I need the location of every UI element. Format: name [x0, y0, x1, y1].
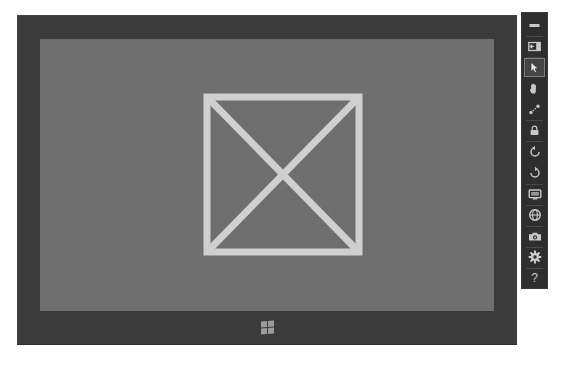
toolbar-item-rotate-right[interactable]: Rotate Right [524, 164, 545, 183]
minimize-icon [528, 19, 541, 32]
toolbar-item-rotate-left[interactable]: Rotate Left [524, 142, 545, 161]
rotate-left-icon [528, 145, 542, 159]
cursor-arrow-icon [528, 61, 541, 74]
toolbar-item-settings[interactable]: Settings [524, 248, 545, 267]
toolbar-item-screenshot[interactable]: Screenshot [524, 227, 545, 246]
hand-icon [528, 82, 541, 95]
network-globe-icon [528, 208, 542, 222]
crossed-box-icon [203, 93, 363, 256]
toolbar-item-network[interactable]: Network [524, 206, 545, 225]
app-root: Windows Minimize Collapse Panel Poin [0, 0, 561, 365]
toolbar-item-collapse-panel[interactable]: Collapse Panel [524, 37, 545, 56]
toolbar-item-minimize[interactable]: Minimize [524, 16, 545, 35]
monitor-icon [528, 188, 542, 201]
gear-icon [528, 250, 542, 264]
image-placeholder [203, 93, 363, 256]
multi-touch-icon [528, 103, 541, 116]
toolbar-item-pan[interactable]: Pan [524, 79, 545, 98]
rotate-right-icon [528, 166, 542, 180]
toolbar-item-pointer[interactable]: Pointer [524, 58, 545, 77]
keyboard-lock-icon [528, 124, 541, 137]
toolbar-item-multi-touch[interactable]: Multi-Touch [524, 100, 545, 119]
toolbar-item-screen[interactable]: Screen [524, 185, 545, 204]
windows-home-button[interactable]: Windows [256, 317, 278, 337]
help-icon: ? [531, 272, 538, 284]
device-screen[interactable] [40, 39, 494, 311]
collapse-panel-icon [528, 40, 541, 53]
toolbar-item-keyboard[interactable]: Keyboard [524, 121, 545, 140]
tablet-device: Windows [17, 15, 517, 345]
windows-logo-icon [261, 320, 274, 334]
device-toolbar[interactable]: Minimize Collapse Panel Pointer Pan [521, 12, 548, 289]
toolbar-item-help[interactable]: ? [524, 269, 545, 288]
camera-icon [528, 230, 542, 243]
